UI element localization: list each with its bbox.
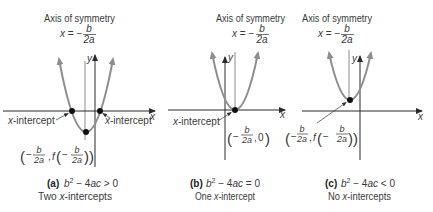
- minus-sign: −: [233, 131, 239, 142]
- axis-of-symmetry-equation: x = − b 2a: [59, 23, 96, 45]
- leader-line: [317, 103, 346, 124]
- x-axis-label: x: [417, 111, 424, 122]
- relation: > 0: [101, 178, 118, 189]
- result-text: One x-intercept: [195, 191, 255, 202]
- y-axis-label: y: [86, 53, 93, 64]
- axis-of-symmetry-equation: x = − b 2a: [317, 23, 354, 45]
- parabola-curve: [329, 53, 371, 100]
- minus-four: − 4: [215, 178, 232, 189]
- vertex-intercept-point: [232, 107, 238, 113]
- y-value: 0: [258, 132, 264, 143]
- result-text: No x-intercepts: [328, 191, 391, 202]
- fraction-denominator: 2a: [255, 34, 268, 45]
- minus-four: − 4: [350, 178, 367, 189]
- result-pre: One: [195, 191, 214, 202]
- open-paren: (: [56, 148, 61, 165]
- var-ac: ac: [232, 178, 243, 189]
- axis-of-symmetry-label: Axis of symmetry: [302, 13, 372, 24]
- relation: < 0: [378, 178, 395, 189]
- fraction-numerator: b: [86, 23, 92, 34]
- equation-lhs: x = −: [59, 28, 82, 39]
- intercept-text: -intercept: [13, 115, 55, 126]
- minus-sign: −: [323, 131, 329, 142]
- minus-four: − 4: [73, 178, 90, 189]
- fraction-denominator: 2a: [33, 155, 44, 165]
- equation-equals: = −: [65, 28, 82, 39]
- minus-sign: −: [26, 149, 32, 160]
- fraction-denominator: 2a: [71, 155, 82, 165]
- var-ac: ac: [367, 178, 378, 189]
- axis-of-symmetry-label: Axis of symmetry: [216, 13, 285, 24]
- minus-sign: −: [62, 149, 68, 160]
- var-ac: ac: [90, 178, 101, 189]
- panel-b: Axis of symmetry x = − b 2a x y x-interc…: [168, 13, 286, 202]
- open-paren: (: [20, 148, 25, 165]
- fraction-denominator: 2a: [296, 134, 307, 144]
- fraction-denominator: 2a: [336, 134, 347, 144]
- vertex-label: ( − b 2a , f ( − b 2a )): [285, 124, 358, 147]
- panel-c: Axis of symmetry x = − b 2a x y ( − b 2a…: [285, 13, 424, 202]
- result-post: -intercepts: [65, 191, 112, 202]
- result-text: Two x-intercepts: [38, 191, 112, 202]
- y-axis-label: y: [351, 53, 358, 64]
- equation-equals: = −: [323, 28, 340, 39]
- vertex-label: ( − b 2a , f ( − b 2a )): [20, 145, 94, 165]
- fraction-numerator: b: [244, 125, 249, 135]
- x-intercept-label-left: x-intercept: [7, 115, 55, 126]
- result-pre: No: [328, 191, 343, 202]
- equation-lhs: x = −: [231, 28, 254, 39]
- quadratic-discriminant-figure: Axis of symmetry x = − b 2a x y x-interc…: [0, 0, 433, 212]
- open-paren: (: [227, 130, 232, 147]
- leader-line-left: [56, 114, 68, 121]
- comma: ,: [254, 132, 257, 143]
- fraction-numerator: b: [36, 145, 41, 155]
- fraction-numerator: b: [259, 23, 265, 34]
- x-axis-label: x: [279, 109, 286, 120]
- fraction-denominator: 2a: [241, 135, 252, 145]
- caption-letter: (a): [47, 178, 59, 189]
- open-paren: (: [317, 130, 322, 147]
- x-intercept-label-right: x-intercept: [104, 115, 152, 126]
- y-axis-label: y: [227, 52, 234, 63]
- close-paren: ): [265, 130, 270, 147]
- intercept-text: -intercept: [178, 116, 220, 127]
- fraction-denominator: 2a: [82, 34, 95, 45]
- x-intercept-point-right: [97, 108, 103, 114]
- relation: = 0: [243, 178, 260, 189]
- x-intercept-label: x-intercept: [172, 116, 220, 127]
- comma: ,: [309, 132, 312, 143]
- discriminant-condition: b2 − 4ac = 0: [206, 177, 260, 189]
- panel-a: Axis of symmetry x = − b 2a x y x-interc…: [3, 13, 156, 202]
- axis-of-symmetry-equation: x = − b 2a: [231, 23, 269, 45]
- result-pre: Two: [38, 191, 59, 202]
- equation-equals: = −: [237, 28, 254, 39]
- close-paren: )): [348, 130, 358, 147]
- vertex-label: ( − b 2a , 0 ): [227, 125, 270, 147]
- caption-letter: (c): [325, 178, 337, 189]
- vertex-point: [347, 97, 353, 103]
- x-intercept-point-left: [69, 108, 75, 114]
- close-paren: )): [84, 148, 94, 165]
- fraction-denominator: 2a: [340, 34, 353, 45]
- fraction-numerator: b: [344, 23, 350, 34]
- result-post: -intercept: [218, 191, 255, 202]
- discriminant-condition: b2 − 4ac < 0: [341, 177, 395, 189]
- fraction-numerator: b: [74, 145, 79, 155]
- fraction-numerator: b: [339, 124, 344, 134]
- open-paren: (: [285, 130, 290, 147]
- equation-lhs: x = −: [317, 28, 340, 39]
- comma: ,: [48, 151, 51, 162]
- fraction-numerator: b: [299, 124, 304, 134]
- result-post: -intercepts: [347, 191, 391, 202]
- caption-letter: (b): [190, 178, 203, 189]
- intercept-text: -intercept: [110, 115, 152, 126]
- discriminant-condition: b2 − 4ac > 0: [64, 177, 118, 189]
- vertex-point: [83, 129, 89, 135]
- axis-of-symmetry-label: Axis of symmetry: [44, 13, 115, 24]
